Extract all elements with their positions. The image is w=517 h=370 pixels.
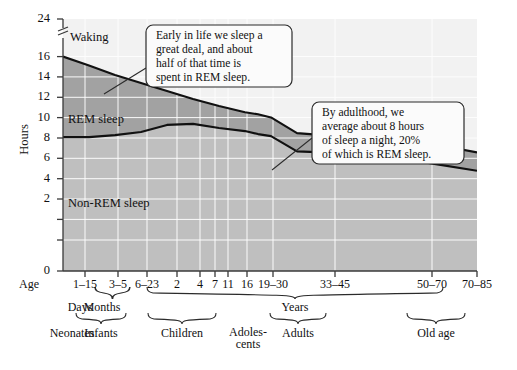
callout-adult-line4: of which is REM sleep. bbox=[322, 148, 431, 162]
y-tick-label-14: 14 bbox=[26, 69, 50, 84]
x-tick-label-19-30: 19–30 bbox=[253, 277, 293, 292]
area-label-waking: Waking bbox=[70, 30, 109, 45]
x-tick-label-11: 11 bbox=[218, 277, 238, 292]
x-tick-label-70-85: 70–85 bbox=[457, 277, 497, 292]
stage-children: Children bbox=[152, 326, 212, 341]
y-tick-label-8: 8 bbox=[26, 130, 50, 145]
y-tick-label-10: 10 bbox=[26, 110, 50, 125]
stage-adults: Adults bbox=[268, 326, 328, 341]
callout-adult-line3: of sleep a night, 20% bbox=[322, 134, 420, 148]
brace-children bbox=[148, 313, 216, 324]
callout-early-line1: Early in life we sleep a bbox=[156, 29, 263, 43]
age-unit-months: Months bbox=[72, 300, 132, 315]
stage-oldage: Old age bbox=[406, 326, 466, 341]
callout-early-line3: half of that time is bbox=[156, 57, 241, 71]
stage-infants: Infants bbox=[71, 326, 131, 341]
age-unit-years: Years bbox=[265, 300, 325, 315]
x-axis-title: Age bbox=[19, 277, 39, 292]
x-tick-label-33-45: 33–45 bbox=[315, 277, 355, 292]
y-tick-label-12: 12 bbox=[26, 89, 50, 104]
y-tick-label-4: 4 bbox=[26, 171, 50, 186]
y-tick-label-24: 24 bbox=[26, 11, 50, 26]
y-tick-label-16: 16 bbox=[26, 49, 50, 64]
y-tick-marks bbox=[57, 19, 63, 271]
y-tick-label-0: 0 bbox=[26, 263, 50, 278]
callout-early-line2: great deal, and about bbox=[156, 43, 253, 57]
callout-adult-line2: average about 8 hours bbox=[322, 120, 424, 134]
brace-oldage bbox=[407, 313, 465, 324]
sleep-across-lifespan-chart: Hours 24 16 14 12 10 8 6 4 2 0 Age 1–15 … bbox=[0, 0, 517, 370]
x-tick-label-50-70: 50–70 bbox=[412, 277, 452, 292]
area-label-rem: REM sleep bbox=[68, 112, 124, 127]
callout-adult-line1: By adulthood, we bbox=[322, 106, 404, 120]
callout-early-line4: spent in REM sleep. bbox=[156, 71, 250, 85]
y-tick-label-6: 6 bbox=[26, 150, 50, 165]
y-tick-label-2: 2 bbox=[26, 191, 50, 206]
area-label-nonrem: Non-REM sleep bbox=[68, 196, 150, 211]
x-tick-label-1-15: 1–15 bbox=[65, 277, 105, 292]
x-tick-label-2: 2 bbox=[167, 277, 187, 292]
x-tick-label-6-23: 6–23 bbox=[127, 277, 167, 292]
